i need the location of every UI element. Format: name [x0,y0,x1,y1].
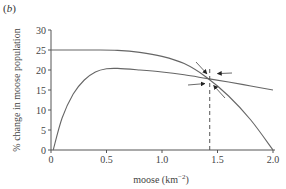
curves [51,50,273,150]
lower-curve [53,68,273,150]
upper-curve [51,50,273,150]
y-tick-label: 20 [36,65,46,76]
arrow-icon [188,84,205,85]
arrow-icon [218,73,232,74]
x-axis-title: moose (km−2) [133,173,189,186]
line-chart: 05101520253000.51.01.52.0 % change in mo… [0,0,286,189]
y-tick-label: 25 [36,45,46,56]
axes [48,30,275,153]
y-tick-label: 30 [36,25,46,36]
arrow-icon [196,62,207,74]
x-tick-label: 2.0 [267,154,280,165]
x-tick-label: 1.0 [156,154,169,165]
x-tick-label: 0 [49,154,54,165]
x-tick-label: 0.5 [100,154,113,165]
y-tick-label: 0 [41,145,46,156]
y-axis-title: % change in moose population [11,28,22,151]
annotations [188,62,232,150]
y-tick-label: 15 [36,85,46,96]
y-tick-label: 5 [41,125,46,136]
x-tick-label: 1.5 [211,154,224,165]
y-tick-label: 10 [36,105,46,116]
